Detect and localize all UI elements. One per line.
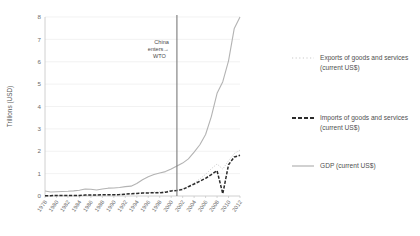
legend-label-0-line1[interactable]: Exports of goods and services xyxy=(320,54,409,62)
x-tick-label-2008: 2008 xyxy=(208,199,220,213)
annotation-label-line2: enters→ xyxy=(148,46,169,52)
x-tick-label-2000: 2000 xyxy=(162,199,174,213)
x-tick-label-1994: 1994 xyxy=(128,199,140,213)
x-tick-label-1996: 1996 xyxy=(139,199,151,213)
x-tick-label-1984: 1984 xyxy=(70,199,82,213)
annotation-label-line1: China xyxy=(154,39,170,45)
y-tick-label-4: 4 xyxy=(38,103,42,110)
x-tick-label-1998: 1998 xyxy=(151,199,163,213)
legend-label-2-line1[interactable]: GDP (current US$) xyxy=(320,162,376,170)
series-line-imports-of-goods-and-services-current-us xyxy=(45,155,240,195)
x-tick-label-2006: 2006 xyxy=(197,199,209,213)
x-tick-label-2004: 2004 xyxy=(185,199,197,213)
legend-label-1-line2[interactable]: (current US$) xyxy=(320,124,360,132)
x-tick-label-1982: 1982 xyxy=(59,199,71,213)
x-tick-label-1990: 1990 xyxy=(105,199,117,213)
y-tick-label-6: 6 xyxy=(38,58,42,65)
x-tick-label-1986: 1986 xyxy=(82,199,94,213)
x-tick-label-1980: 1980 xyxy=(47,199,59,213)
y-tick-label-8: 8 xyxy=(38,13,42,20)
y-tick-label-3: 3 xyxy=(38,125,42,132)
x-tick-label-1988: 1988 xyxy=(93,199,105,213)
y-tick-label-7: 7 xyxy=(38,36,42,43)
y-tick-label-1: 1 xyxy=(38,170,42,177)
annotation-label-line3: WTO xyxy=(153,53,167,59)
x-tick-label-1978: 1978 xyxy=(36,199,48,213)
x-tick-label-2012: 2012 xyxy=(231,199,243,213)
legend-label-1-line1[interactable]: Imports of goods and services xyxy=(320,114,409,122)
y-tick-label-5: 5 xyxy=(38,80,42,87)
legend-label-0-line2[interactable]: (current US$) xyxy=(320,64,360,72)
economic-line-chart: 012345678Trillions (USD)1978198019821984… xyxy=(0,0,420,236)
x-tick-label-2002: 2002 xyxy=(174,199,186,213)
y-axis-title: Trillions (USD) xyxy=(6,86,14,127)
chart-container: 012345678Trillions (USD)1978198019821984… xyxy=(0,0,420,236)
x-tick-label-1992: 1992 xyxy=(116,199,128,213)
y-tick-label-0: 0 xyxy=(38,192,42,199)
x-tick-label-2010: 2010 xyxy=(219,199,231,213)
series-line-exports-of-goods-and-services-current-us xyxy=(45,150,240,196)
y-tick-label-2: 2 xyxy=(38,147,42,154)
series-line-gdp-current-us xyxy=(45,17,240,192)
